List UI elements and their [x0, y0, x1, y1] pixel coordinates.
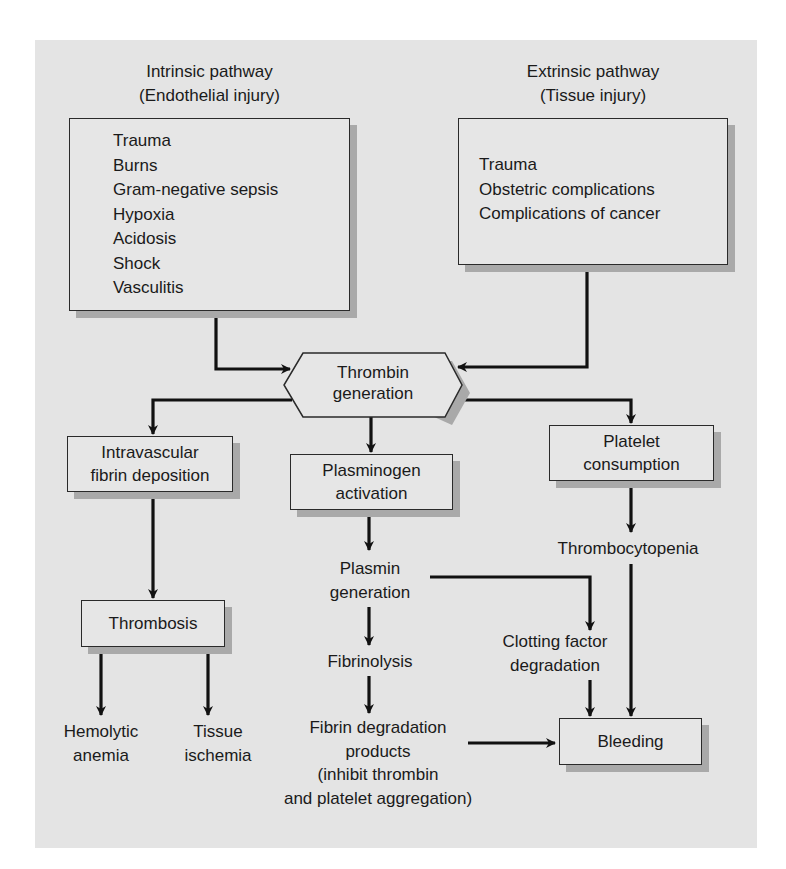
- intrinsic-cause: Acidosis: [113, 227, 349, 252]
- intrinsic-cause: Gram-negative sepsis: [113, 178, 349, 203]
- intravascular-fibrin-node: Intravascular fibrin deposition: [67, 436, 233, 492]
- hemolytic-anemia-node: Hemolytic anemia: [41, 720, 161, 767]
- intrinsic-cause: Shock: [113, 252, 349, 277]
- intrinsic-causes-box: Trauma Burns Gram-negative sepsis Hypoxi…: [69, 118, 350, 311]
- plasmin-generation-node: Plasmin generation: [300, 557, 440, 604]
- intrinsic-cause: Hypoxia: [113, 203, 349, 228]
- extrinsic-cause: Trauma: [479, 153, 727, 178]
- extrinsic-cause: Obstetric complications: [479, 178, 727, 203]
- fibrin-degradation-products-node: Fibrin degradation products (inhibit thr…: [268, 716, 488, 810]
- thrombocytopenia-node: Thrombocytopenia: [548, 537, 708, 561]
- extrinsic-causes-box: Trauma Obstetric complications Complicat…: [458, 118, 728, 265]
- clotting-factor-degradation-node: Clotting factor degradation: [485, 630, 625, 677]
- bleeding-node: Bleeding: [559, 718, 702, 765]
- platelet-consumption-node: Platelet consumption: [549, 425, 714, 481]
- tissue-ischemia-node: Tissue ischemia: [158, 720, 278, 767]
- extrinsic-cause: Complications of cancer: [479, 202, 727, 227]
- extrinsic-heading: Extrinsic pathway (Tissue injury): [458, 60, 728, 107]
- intrinsic-cause: Vasculitis: [113, 276, 349, 301]
- thrombin-generation-node: Thrombin generation: [284, 362, 462, 404]
- fibrinolysis-node: Fibrinolysis: [300, 650, 440, 674]
- intrinsic-cause: Burns: [113, 154, 349, 179]
- thrombosis-node: Thrombosis: [81, 600, 225, 647]
- plasminogen-activation-node: Plasminogen activation: [290, 454, 453, 510]
- intrinsic-cause: Trauma: [113, 129, 349, 154]
- intrinsic-heading: Intrinsic pathway (Endothelial injury): [69, 60, 350, 107]
